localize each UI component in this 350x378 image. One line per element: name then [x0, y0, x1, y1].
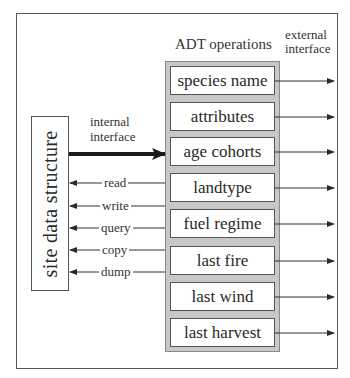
op-attributes: attributes [170, 102, 275, 131]
op-label: species name [177, 71, 267, 91]
op-label: age cohorts [184, 142, 262, 162]
internal-interface-line2: interface [90, 129, 135, 144]
message-query: query [99, 221, 133, 235]
op-label: last harvest [184, 323, 261, 343]
op-label: last fire [197, 251, 248, 271]
site-data-structure-box: site data structure [31, 116, 69, 291]
op-landtype: landtype [170, 173, 275, 202]
op-age-cohorts: age cohorts [170, 137, 275, 166]
site-data-structure-label: site data structure [39, 130, 62, 277]
external-interface-line2: interface [285, 42, 330, 56]
op-label: last wind [192, 287, 254, 307]
op-fuel-regime: fuel regime [170, 209, 275, 238]
op-last-harvest: last harvest [170, 318, 275, 347]
external-interface-heading: external interface [285, 28, 330, 56]
message-write: write [100, 199, 131, 213]
message-copy: copy [100, 243, 129, 257]
op-last-fire: last fire [170, 246, 275, 275]
message-dump: dump [99, 265, 133, 279]
op-species-name: species name [170, 66, 275, 95]
adt-operations-heading: ADT operations [175, 36, 272, 52]
op-label: attributes [191, 107, 254, 127]
internal-interface-label: internal interface [90, 114, 135, 144]
op-label: fuel regime [184, 214, 262, 234]
message-read: read [102, 176, 128, 190]
external-interface-line1: external [285, 28, 330, 42]
op-last-wind: last wind [170, 282, 275, 311]
internal-interface-line1: internal [90, 114, 135, 129]
op-label: landtype [193, 178, 252, 198]
